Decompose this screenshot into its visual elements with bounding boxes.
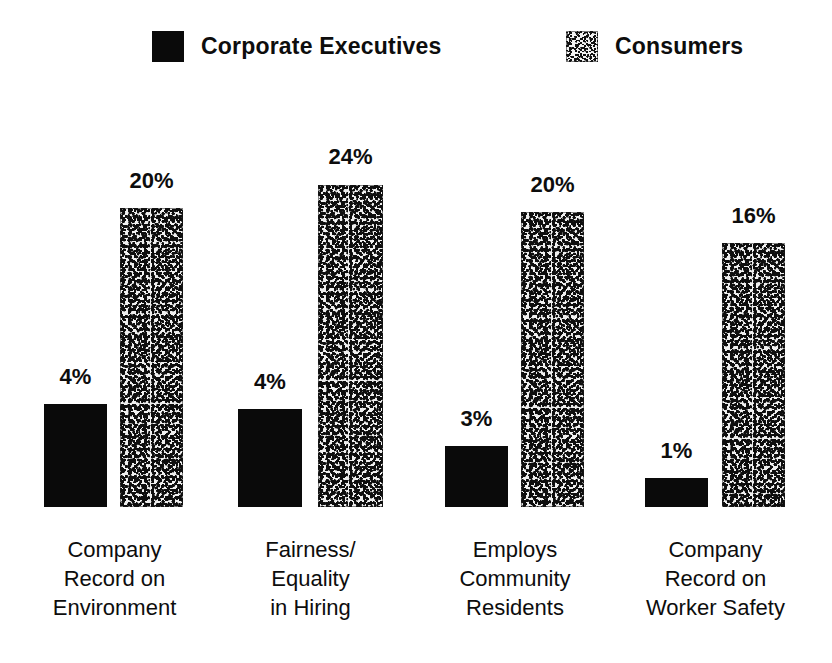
- bar-g1-consumers[interactable]: [318, 185, 383, 507]
- bar-g0-consumers[interactable]: [120, 208, 183, 507]
- plot-area: 4% 20% 4% 24% 3% 20% 1% 16% Company Reco…: [0, 0, 832, 663]
- value-label-g3-corporate-executives: 1%: [645, 440, 708, 462]
- bar-g3-corporate-executives[interactable]: [645, 478, 708, 507]
- bar-g0-corporate-executives[interactable]: [44, 404, 107, 507]
- value-label-g0-consumers: 20%: [111, 170, 192, 192]
- value-label-g0-corporate-executives: 4%: [44, 366, 107, 388]
- category-label-company-record-on-environment: Company Record on Environment: [22, 535, 207, 622]
- bar-g2-corporate-executives[interactable]: [445, 446, 508, 507]
- bar-g2-consumers[interactable]: [521, 212, 584, 507]
- value-label-g3-consumers: 16%: [713, 205, 794, 227]
- category-label-fairness-equality-in-hiring: Fairness/ Equality in Hiring: [218, 535, 403, 622]
- value-label-g1-consumers: 24%: [310, 146, 391, 168]
- bar-g3-consumers[interactable]: [722, 243, 785, 507]
- value-label-g2-corporate-executives: 3%: [445, 408, 508, 430]
- value-label-g2-consumers: 20%: [512, 174, 593, 196]
- bar-chart: Corporate Executives Consumers 4% 20% 4%…: [0, 0, 832, 663]
- bar-g1-corporate-executives[interactable]: [238, 409, 302, 507]
- category-label-company-record-on-worker-safety: Company Record on Worker Safety: [618, 535, 813, 622]
- category-label-employs-community-residents: Employs Community Residents: [420, 535, 610, 622]
- value-label-g1-corporate-executives: 4%: [238, 371, 302, 393]
